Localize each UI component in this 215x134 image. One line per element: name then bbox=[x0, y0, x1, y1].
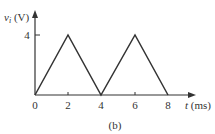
y-axis-arrow-icon bbox=[32, 10, 38, 18]
figure-caption: (b) bbox=[109, 119, 122, 132]
waveform-line bbox=[35, 35, 168, 95]
xtick-4-label: 4 bbox=[98, 99, 104, 111]
x-axis-label: t (ms) bbox=[185, 99, 211, 112]
y-axis-unit: (V) bbox=[11, 11, 29, 24]
xtick-6-label: 6 bbox=[132, 99, 138, 111]
x-axis-arrow-icon bbox=[188, 92, 196, 98]
ytick-4-label: 4 bbox=[24, 29, 30, 41]
y-axis-label: vi (V) bbox=[4, 11, 29, 25]
xtick-0-label: 0 bbox=[32, 99, 38, 111]
x-axis-unit: (ms) bbox=[188, 99, 211, 112]
triangle-wave-chart: 4 0 2 4 6 8 vi (V) t (ms) (b) bbox=[0, 0, 215, 134]
xtick-8-label: 8 bbox=[165, 99, 171, 111]
xtick-2-label: 2 bbox=[65, 99, 71, 111]
